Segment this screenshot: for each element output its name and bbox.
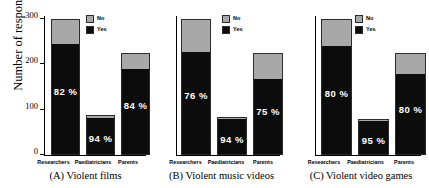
legend-entry-yes: Yes bbox=[355, 25, 376, 34]
bar-segment-no bbox=[321, 19, 352, 46]
x-label-parents: Parents bbox=[384, 159, 424, 166]
panel-c-caption: (C) Violent video games bbox=[297, 170, 425, 182]
legend-entry-no: No bbox=[222, 14, 243, 23]
bar-paediatricians[interactable]: 94 % bbox=[217, 117, 247, 156]
y-tick-label-0: 0 bbox=[34, 147, 38, 155]
panel-b-caption: (B) Violent music videos bbox=[160, 170, 283, 182]
bar-percent-label: 80 % bbox=[321, 88, 352, 99]
bar-parents[interactable]: 80 % bbox=[395, 53, 426, 155]
bar-parents[interactable]: 84 % bbox=[121, 53, 150, 155]
stacked-bar-chart-figure: Number of respondents 0 100 200 300 82 % bbox=[0, 0, 429, 188]
bar-researchers[interactable]: 80 % bbox=[321, 19, 352, 155]
bar-segment-no bbox=[395, 53, 426, 73]
legend-label-yes: Yes bbox=[97, 26, 107, 33]
legend-label-no: No bbox=[97, 15, 104, 22]
legend-swatch-no-icon bbox=[86, 15, 94, 23]
bar-researchers[interactable]: 76 % bbox=[181, 19, 211, 155]
legend-entry-yes: Yes bbox=[86, 25, 107, 34]
legend-swatch-yes-icon bbox=[355, 26, 363, 34]
y-axis-line bbox=[176, 16, 177, 156]
legend-label-yes: Yes bbox=[233, 26, 243, 33]
y-tick-200 bbox=[40, 63, 44, 64]
bar-segment-yes bbox=[181, 52, 211, 155]
legend-panel-b: No Yes bbox=[222, 14, 243, 36]
bar-percent-label: 84 % bbox=[121, 100, 150, 111]
legend-label-yes: Yes bbox=[366, 26, 376, 33]
bar-segment-no bbox=[51, 19, 80, 44]
legend-entry-yes: Yes bbox=[222, 25, 243, 34]
y-axis-line bbox=[315, 16, 316, 156]
x-axis-line bbox=[315, 155, 421, 156]
y-tick-0 bbox=[40, 154, 44, 155]
y-tick-label-200: 200 bbox=[25, 56, 38, 64]
legend-entry-no: No bbox=[86, 14, 107, 23]
bar-segment-yes bbox=[51, 44, 80, 155]
y-tick-300 bbox=[40, 18, 44, 19]
legend-swatch-no-icon bbox=[222, 15, 230, 23]
legend-label-no: No bbox=[233, 15, 240, 22]
x-axis-line bbox=[176, 155, 280, 156]
y-tick-label-300: 300 bbox=[25, 11, 38, 19]
bar-percent-label: 76 % bbox=[181, 90, 211, 101]
bar-segment-yes bbox=[321, 46, 352, 155]
panel-b-plot-area: 76 % 94 % 75 % bbox=[176, 16, 280, 156]
bar-paediatricians[interactable]: 95 % bbox=[358, 119, 389, 155]
legend-panel-a: No Yes bbox=[86, 14, 107, 36]
y-tick-100 bbox=[40, 109, 44, 110]
panel-a-plot-area: 0 100 200 300 82 % 94 % 84 % bbox=[44, 16, 146, 156]
panel-a-caption: (A) Violent films bbox=[24, 170, 147, 182]
bar-percent-label: 80 % bbox=[395, 104, 426, 115]
legend-swatch-yes-icon bbox=[86, 26, 94, 34]
x-axis-line bbox=[44, 155, 146, 156]
bar-percent-label: 94 % bbox=[217, 134, 247, 145]
bar-paediatricians[interactable]: 94 % bbox=[86, 115, 115, 155]
bar-segment-yes bbox=[121, 69, 150, 155]
legend-swatch-yes-icon bbox=[222, 26, 230, 34]
y-axis-line bbox=[44, 16, 45, 156]
x-label-parents: Parents bbox=[108, 159, 148, 166]
bar-percent-label: 94 % bbox=[86, 133, 115, 144]
bar-parents[interactable]: 75 % bbox=[253, 53, 283, 155]
bar-percent-label: 75 % bbox=[253, 106, 283, 117]
legend-panel-c: No Yes bbox=[355, 14, 376, 36]
x-label-parents: Parents bbox=[243, 159, 283, 166]
y-tick-label-100: 100 bbox=[25, 102, 38, 110]
bar-segment-no bbox=[121, 53, 150, 69]
bar-researchers[interactable]: 82 % bbox=[51, 19, 80, 155]
bar-segment-no bbox=[253, 53, 283, 78]
legend-swatch-no-icon bbox=[355, 15, 363, 23]
bar-segment-no bbox=[181, 19, 211, 52]
legend-entry-no: No bbox=[355, 14, 376, 23]
legend-label-no: No bbox=[366, 15, 373, 22]
bar-percent-label: 95 % bbox=[358, 135, 389, 146]
bar-percent-label: 82 % bbox=[51, 86, 80, 97]
panel-c-plot-area: 80 % 95 % 80 % bbox=[315, 16, 421, 156]
